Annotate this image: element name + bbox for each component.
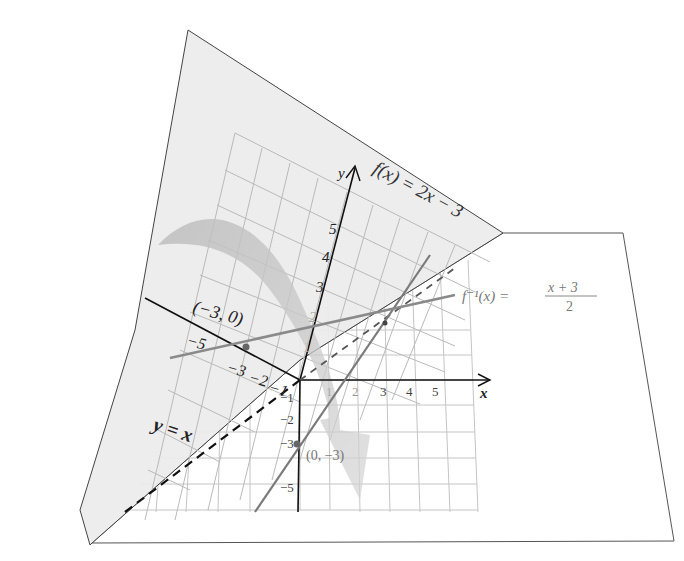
x-axis-label: x [479, 385, 488, 401]
svg-text:2: 2 [309, 309, 317, 325]
inverse-label-num: x + 3 [547, 280, 578, 295]
svg-text:4: 4 [322, 249, 330, 265]
svg-text:2: 2 [352, 384, 359, 399]
intersection-point [383, 321, 388, 326]
svg-text:1: 1 [326, 384, 333, 399]
svg-text:−3: −3 [280, 436, 294, 451]
svg-text:5: 5 [329, 221, 337, 237]
point-inv-intercept [243, 344, 250, 351]
svg-text:1: 1 [303, 339, 311, 355]
inverse-label-lhs: f⁻¹(x) = [462, 288, 509, 305]
svg-text:4: 4 [406, 384, 413, 399]
point-fn-intercept [294, 441, 301, 448]
point-fn-label: (0, −3) [306, 448, 345, 464]
svg-text:3: 3 [380, 384, 387, 399]
svg-text:−2: −2 [280, 412, 294, 427]
svg-text:5: 5 [432, 384, 439, 399]
inverse-function-diagram: f(x) = 2x − 3 f⁻¹(x) = x + 3 2 y = x (−3… [0, 0, 684, 561]
svg-text:−5: −5 [280, 480, 294, 495]
inverse-label-den: 2 [566, 299, 573, 314]
y-axis-label: y [336, 165, 345, 181]
svg-text:3: 3 [315, 279, 324, 295]
